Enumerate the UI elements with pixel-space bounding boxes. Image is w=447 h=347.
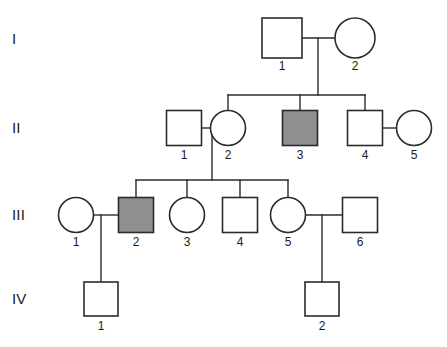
generation-label-III: III (12, 206, 25, 223)
individual-id-label-I-2: 2 (352, 59, 359, 73)
individual-id-labels-layer: 121234512345612 (73, 59, 418, 333)
individual-id-label-IV-2: 2 (319, 319, 326, 333)
individual-id-label-III-4: 4 (237, 235, 244, 249)
individual-IV-2-male-unaffected[interactable] (305, 282, 339, 316)
individual-id-label-III-3: 3 (184, 235, 191, 249)
individual-II-4-male-unaffected[interactable] (348, 111, 383, 146)
generation-labels-layer: IIIIIIIV (12, 30, 27, 307)
pedigree-canvas: 121234512345612 IIIIIIIV (0, 0, 447, 347)
individual-IV-1-male-unaffected[interactable] (84, 282, 118, 316)
individual-id-label-II-1: 1 (181, 148, 188, 162)
individual-III-1-female-unaffected[interactable] (59, 198, 94, 233)
individual-symbols-layer (59, 18, 432, 316)
individual-III-2-male-affected[interactable] (119, 198, 154, 233)
individual-id-label-III-5: 5 (285, 235, 292, 249)
individual-id-label-III-2: 2 (133, 235, 140, 249)
generation-label-I: I (12, 30, 16, 47)
individual-id-label-IV-1: 1 (98, 319, 105, 333)
individual-II-3-male-affected[interactable] (283, 111, 318, 146)
individual-II-2-female-unaffected[interactable] (211, 111, 246, 146)
individual-id-label-I-1: 1 (279, 59, 286, 73)
individual-id-label-III-1: 1 (73, 235, 80, 249)
individual-id-label-II-2: 2 (225, 148, 232, 162)
individual-II-1-male-unaffected[interactable] (167, 111, 202, 146)
individual-id-label-III-6: 6 (357, 235, 364, 249)
generation-label-IV: IV (12, 290, 27, 307)
individual-III-6-male-unaffected[interactable] (343, 198, 378, 233)
individual-id-label-II-3: 3 (297, 148, 304, 162)
individual-III-5-female-unaffected[interactable] (271, 198, 306, 233)
individual-III-4-male-unaffected[interactable] (223, 198, 258, 233)
generation-label-II: II (12, 119, 21, 136)
individual-id-label-II-5: 5 (411, 148, 418, 162)
individual-II-5-female-unaffected[interactable] (397, 111, 432, 146)
individual-I-2-female-unaffected[interactable] (335, 18, 375, 58)
pedigree-chart: 121234512345612 IIIIIIIV (0, 0, 447, 347)
individual-III-3-female-unaffected[interactable] (170, 198, 205, 233)
individual-id-label-II-4: 4 (362, 148, 369, 162)
individual-I-1-male-unaffected[interactable] (262, 18, 302, 58)
